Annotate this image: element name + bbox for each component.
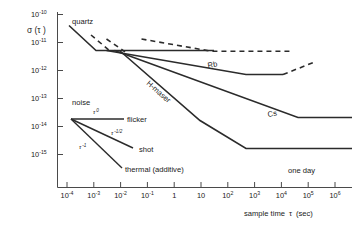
x-tick-label-2: 10-2 — [114, 190, 127, 200]
y-ticks-group — [58, 15, 64, 155]
label-thermal: thermal (additive) — [125, 165, 184, 174]
allan-deviation-chart: 10-10 10-11 10-12 10-13 10-14 10-15 σ (τ… — [0, 0, 361, 230]
x-tick-label-4: 1 — [172, 191, 176, 200]
x-tick-label-5: 10 — [197, 191, 205, 200]
y-tick-label-2: 10-12 — [31, 65, 47, 75]
series-rb-dash-flat — [142, 39, 292, 51]
slope-labels-group: τ0 τ-1/2 τ-1 — [79, 108, 123, 151]
series-quartz — [69, 26, 214, 51]
x-tick-labels: 10-4 10-3 10-2 10-1 1 10 102 103 — [61, 190, 341, 200]
x-tick-label-7: 103 — [249, 190, 260, 200]
axes-group — [58, 12, 353, 188]
slope-label-tau-half: τ-1/2 — [111, 129, 123, 137]
slope-label-tau-one: τ-1 — [79, 143, 87, 151]
y-tick-label-0: 10-10 — [31, 9, 47, 19]
label-rb: Rb — [207, 59, 218, 69]
slope-label-tau0: τ0 — [93, 108, 99, 116]
label-noise: noise — [72, 98, 90, 107]
x-tick-label-10: 106 — [329, 190, 340, 200]
y-tick-label-3: 10-13 — [31, 93, 47, 103]
x-tick-label-3: 10-1 — [141, 190, 154, 200]
label-shot: shot — [139, 145, 154, 154]
label-flicker: flicker — [127, 115, 147, 124]
y-tick-label-1: 10-11 — [31, 37, 46, 47]
y-tick-label-4: 10-14 — [31, 121, 47, 131]
label-quartz: quartz — [72, 17, 93, 26]
x-axis-title: sample timeτ(sec) — [244, 209, 313, 218]
x-tick-label-8: 104 — [276, 190, 287, 200]
label-cs: Cs — [267, 109, 278, 119]
chart-canvas: 10-10 10-11 10-12 10-13 10-14 10-15 σ (τ… — [0, 0, 361, 230]
x-ticks-group — [67, 182, 335, 188]
label-one-day: one day — [288, 166, 315, 175]
y-tick-label-5: 10-15 — [31, 149, 47, 159]
series-rb-dash-tail — [283, 62, 316, 75]
x-tick-label-1: 10-3 — [87, 190, 100, 200]
x-tick-label-0: 10-4 — [61, 190, 74, 200]
y-axis-title: σ (τ ) — [27, 25, 46, 35]
x-tick-label-9: 105 — [303, 190, 314, 200]
label-h-maser: H-maser — [145, 79, 173, 105]
x-tick-label-6: 102 — [222, 190, 233, 200]
